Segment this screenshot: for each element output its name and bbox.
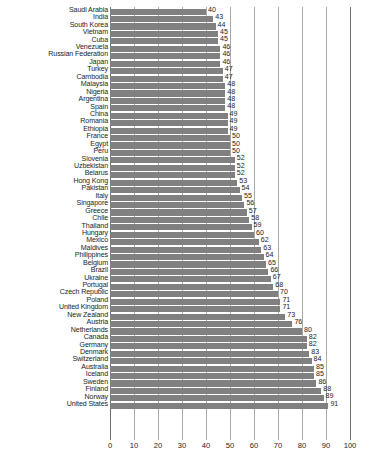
bar [110,388,321,394]
bar-row: Belgium65 [0,261,374,268]
bar-row: Nigeria48 [0,90,374,97]
bar [110,76,223,82]
bar [110,261,266,267]
bar [110,254,264,260]
bar-value-label: 76 [294,319,302,326]
plot-area: Saudi Arabia40India43South Korea44Vietna… [0,0,374,440]
bar-row: China49 [0,112,374,119]
bar [110,180,237,186]
bar-row: Czech Republic70 [0,291,374,298]
bar-row: Chile58 [0,216,374,223]
bar [110,128,228,134]
bar-row: Brazil66 [0,268,374,275]
bar-row: Hungary60 [0,231,374,238]
bar [110,31,218,37]
bar-row: Saudi Arabia40 [0,8,374,15]
x-axis-tick-70: 70 [274,441,282,451]
bar [110,202,244,208]
x-axis-tick-80: 80 [298,441,306,451]
bar [110,135,230,141]
bar-row: Peru50 [0,149,374,156]
bar-row: Russian Federation46 [0,53,374,60]
bar-row: Turkey47 [0,68,374,75]
bar-row: Romania49 [0,120,374,127]
bar [110,165,235,171]
bar [110,351,309,357]
bar [110,68,223,74]
bar [110,284,273,290]
bar-row: Thailand59 [0,224,374,231]
bar [110,380,316,386]
x-axis-tick-100: 100 [344,441,357,451]
bar-row: Egypt50 [0,142,374,149]
bar [110,120,228,126]
bar [110,328,302,334]
bar [110,314,285,320]
bar-row: Pakistan54 [0,187,374,194]
bar [110,366,314,372]
bar-row: Mexico62 [0,239,374,246]
bar-row: Greece57 [0,209,374,216]
bar [110,142,230,148]
bar-row: Canada82 [0,335,374,342]
bar-row: Argentina48 [0,97,374,104]
x-axis: 0102030405060708090100 [0,441,374,455]
bar-row: Maldives63 [0,246,374,253]
bar [110,321,292,327]
x-axis-tick-10: 10 [130,441,138,451]
x-axis-tick-60: 60 [250,441,258,451]
bar [110,403,328,409]
bar-row: Malaysia48 [0,82,374,89]
bar [110,105,225,111]
bar [110,113,228,119]
x-axis-tick-0: 0 [108,441,112,451]
bar-row: South Korea44 [0,23,374,30]
bar [110,269,268,275]
x-axis-tick-40: 40 [202,441,210,451]
bar [110,61,220,67]
bar-row: United States91 [0,402,374,409]
bar [110,239,259,245]
bar [110,90,225,96]
bar-row: New Zealand73 [0,313,374,320]
bar [110,276,271,282]
bar-row: Cuba45 [0,38,374,45]
bar [110,224,252,230]
bar [110,172,235,178]
bar-row: Uzbekistan52 [0,164,374,171]
bar-row: Sweden86 [0,380,374,387]
bar [110,46,220,52]
bar [110,306,280,312]
bar [110,358,312,364]
bar-row: Ukraine67 [0,276,374,283]
x-axis-tick-30: 30 [178,441,186,451]
bar-row: Cambodia47 [0,75,374,82]
x-axis-tick-20: 20 [154,441,162,451]
bar-row: Norway89 [0,395,374,402]
bar-row: Belarus52 [0,172,374,179]
bar-row: Portugal68 [0,283,374,290]
bar-row: Italy55 [0,194,374,201]
bar-row: Vietnam45 [0,30,374,37]
bar [110,23,216,29]
bar-row: Spain48 [0,105,374,112]
bar [110,187,240,193]
bar-row: Japan46 [0,60,374,67]
bar-row: Singapore56 [0,201,374,208]
bar-rows: Saudi Arabia40India43South Korea44Vietna… [0,8,374,410]
bar-row: Finland88 [0,387,374,394]
bar [110,291,278,297]
bar-row: Hong Kong53 [0,179,374,186]
x-axis-tick-90: 90 [322,441,330,451]
bar-row: India43 [0,15,374,22]
bar [110,150,230,156]
bar-row: France50 [0,134,374,141]
bar [110,157,235,163]
bar [110,343,307,349]
bar-value-label: 91 [330,401,338,408]
bar [110,336,307,342]
bar-row: Poland71 [0,298,374,305]
bar [110,195,242,201]
bar [110,217,249,223]
bar [110,209,247,215]
